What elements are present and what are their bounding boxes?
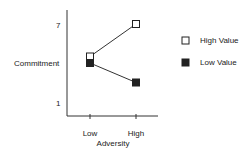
- legend-label: Low Value: [200, 58, 237, 67]
- legend-label: High Value: [200, 36, 239, 45]
- series-line: [90, 63, 136, 83]
- y-axis-label: Commitment: [14, 59, 60, 68]
- x-tick-label-low: Low: [83, 129, 98, 138]
- series-line: [90, 24, 136, 57]
- y-tick-1: 1: [56, 99, 61, 108]
- filled-square-marker: [87, 60, 94, 67]
- y-tick-7: 7: [56, 21, 61, 30]
- axes: [67, 10, 158, 119]
- x-tick-label-high: High: [128, 129, 144, 138]
- plot-area: [87, 21, 140, 87]
- open-square-marker: [87, 53, 94, 60]
- legend-filled-square-icon: [182, 59, 189, 66]
- chart: 7 1 Commitment Low High Adversity High V…: [0, 0, 245, 155]
- legend: High ValueLow Value: [182, 36, 239, 67]
- open-square-marker: [133, 21, 140, 28]
- filled-square-marker: [133, 79, 140, 86]
- legend-open-square-icon: [182, 37, 189, 44]
- x-axis-label: Adversity: [97, 139, 130, 148]
